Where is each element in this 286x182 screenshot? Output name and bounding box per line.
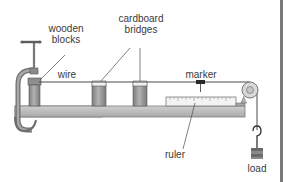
right-border-bar [280,0,283,182]
label-ruler: ruler [163,149,187,160]
label-marker: marker [183,69,219,80]
cardboard-bridge-1 [92,81,106,106]
label-wooden-blocks-line1: wooden [48,23,84,34]
label-wooden-blocks: wooden blocks [48,23,84,45]
ruler [166,97,245,106]
label-cardboard-bridges: cardboard bridges [117,13,165,35]
label-wooden-blocks-line2: blocks [48,34,84,45]
label-load: load [245,163,269,174]
apparatus-diagram: wooden blocks cardboard bridges wire mar… [0,0,286,182]
cardboard-bridge-2 [133,81,147,106]
label-cardboard-bridges-line1: cardboard [117,13,165,24]
pulley [241,82,258,103]
label-wire: wire [55,69,79,80]
load-weight [251,148,263,159]
label-cardboard-bridges-line2: bridges [117,24,165,35]
bench [15,106,245,117]
marker [196,80,205,92]
